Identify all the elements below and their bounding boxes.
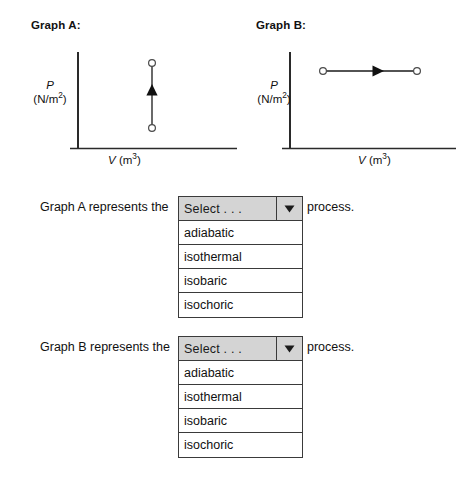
graph-b-y-symbol: P <box>270 79 278 91</box>
graph-a-x-units-close: ) <box>137 154 141 166</box>
process-dropdown-b-selected: Select . . . <box>179 337 276 360</box>
question-b-prefix: Graph B represents the <box>40 340 170 354</box>
process-dropdown-a[interactable]: Select . . . adiabatic isothermal isobar… <box>178 196 303 318</box>
graph-a-x-axis-label: V (m3) <box>108 154 141 166</box>
graph-b-y-axis-label: P (N/m2) <box>250 78 298 106</box>
chevron-down-icon[interactable] <box>276 197 302 220</box>
graph-b-x-units-open: (m <box>369 154 382 166</box>
question-a-prefix: Graph A represents the <box>40 200 169 214</box>
process-dropdown-b-header[interactable]: Select . . . <box>179 337 302 361</box>
process-option-adiabatic[interactable]: adiabatic <box>179 361 302 385</box>
graph-b-x-symbol: V <box>358 154 366 166</box>
graph-a-y-units-close: ) <box>63 93 67 105</box>
graph-a-y-units-open: (N/m <box>33 93 58 105</box>
graph-a-y-axis-label: P (N/m2) <box>26 78 74 106</box>
process-option-isobaric[interactable]: isobaric <box>179 269 302 293</box>
chevron-down-icon[interactable] <box>276 337 302 360</box>
graph-panel-a: Graph A: P (N/m2) V (m3) <box>0 0 245 180</box>
graph-b-x-axis-label: V (m3) <box>358 154 391 166</box>
graph-a-endpoint-top <box>149 60 156 67</box>
process-dropdown-a-selected: Select . . . <box>179 197 276 220</box>
graph-a-endpoint-bottom <box>149 125 156 132</box>
graph-a-y-symbol: P <box>46 79 54 91</box>
process-option-isothermal[interactable]: isothermal <box>179 245 302 269</box>
graph-b-y-units-open: (N/m <box>257 93 282 105</box>
graphs-region: Graph A: P (N/m2) V (m3) Graph B: <box>0 0 473 180</box>
process-option-isothermal[interactable]: isothermal <box>179 385 302 409</box>
graph-b-direction-arrow-right <box>373 65 385 76</box>
process-option-isochoric[interactable]: isochoric <box>179 433 302 457</box>
process-dropdown-b[interactable]: Select . . . adiabatic isothermal isobar… <box>178 336 303 458</box>
graph-b-y-units-close: ) <box>287 93 291 105</box>
graph-panel-b: Graph B: P (N/m2) V (m3) <box>228 0 473 180</box>
question-b-suffix: process. <box>307 340 354 354</box>
process-option-isochoric[interactable]: isochoric <box>179 293 302 317</box>
process-option-adiabatic[interactable]: adiabatic <box>179 221 302 245</box>
graph-b-endpoint-right <box>414 68 421 75</box>
process-dropdown-a-header[interactable]: Select . . . <box>179 197 302 221</box>
process-option-isobaric[interactable]: isobaric <box>179 409 302 433</box>
question-a-suffix: process. <box>307 200 354 214</box>
graph-a-x-units-open: (m <box>119 154 132 166</box>
graph-a-x-symbol: V <box>108 154 116 166</box>
graph-b-x-units-close: ) <box>387 154 391 166</box>
graph-a-direction-arrow-up <box>146 84 157 96</box>
graph-b-endpoint-left <box>320 68 327 75</box>
